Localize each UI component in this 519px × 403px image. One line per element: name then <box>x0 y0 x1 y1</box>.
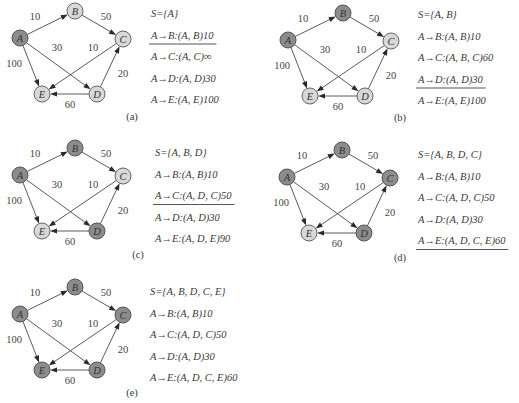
path-line: A→E:(A, D, E)90 <box>154 233 231 245</box>
path-line: A→C:(A, C)∞ <box>150 51 212 63</box>
weight-label-A-D: 30 <box>52 42 63 53</box>
arrowhead-D-E <box>50 367 57 372</box>
arrowhead-B-C <box>109 166 116 172</box>
edge-C-E <box>320 182 384 225</box>
node-label-B: B <box>72 6 79 17</box>
edge-A-E <box>290 184 304 220</box>
path-line: A→B:(A, B)10 <box>417 171 481 183</box>
path-line: A→C:(A, D, C)50 <box>154 190 232 202</box>
panel-caption: (b) <box>394 112 407 124</box>
arrowhead-B-C <box>377 31 384 37</box>
visited-set-label: S={A, B, D, C} <box>418 149 483 160</box>
weight-label-A-B: 10 <box>298 13 309 24</box>
visited-set-label: S={A, B} <box>418 9 458 20</box>
weight-label-A-E: 100 <box>6 334 22 345</box>
arrowhead-D-E <box>50 91 57 96</box>
panel-caption: (a) <box>126 111 138 123</box>
path-line: A→D:(A, D)30 <box>150 73 216 85</box>
arrowhead-C-E <box>316 222 323 228</box>
panel-c: 105030100102060ABCDES={A, B, D}A→B:(A, B… <box>6 140 234 261</box>
arrowhead-D-E <box>318 93 325 98</box>
node-label-B: B <box>339 145 346 156</box>
arrowhead-D-E <box>317 230 324 235</box>
node-label-C: C <box>119 310 127 321</box>
arrowhead-A-E <box>34 79 39 86</box>
visited-set-label: S={A, B, D} <box>155 147 207 158</box>
arrowhead-A-D <box>83 220 90 226</box>
arrowhead-A-B <box>328 17 335 22</box>
arrowhead-A-E <box>302 81 307 88</box>
node-label-B: B <box>340 8 347 19</box>
panel-e: 105030100102060ABCDES={A, B, D, C, E}A→B… <box>6 279 238 399</box>
path-line: A→B:(A, B)10 <box>154 169 218 181</box>
node-label-D: D <box>92 365 101 376</box>
edge-C-E <box>53 180 117 223</box>
weight-label-D-E: 60 <box>332 238 343 249</box>
node-label-D: D <box>360 91 369 102</box>
arrowhead-A-B <box>60 152 67 157</box>
weight-label-C-E: 10 <box>88 42 99 53</box>
arrowhead-A-D <box>350 222 357 228</box>
weight-label-A-D: 30 <box>320 44 331 55</box>
arrowhead-B-C <box>109 29 116 35</box>
arrowhead-D-C <box>114 46 119 53</box>
arrowhead-C-E <box>49 359 56 365</box>
arrowhead-A-B <box>60 15 67 20</box>
weight-label-D-C: 20 <box>386 70 397 81</box>
path-line: A→B:(A, B)10 <box>149 308 213 320</box>
edge-D-C <box>367 190 384 226</box>
edge-C-E <box>53 43 117 86</box>
node-label-A: A <box>284 35 292 46</box>
weight-label-D-E: 60 <box>333 101 344 112</box>
node-label-E: E <box>38 89 46 100</box>
edge-D-C <box>368 53 385 89</box>
weight-label-D-C: 20 <box>385 207 396 218</box>
weight-label-A-E: 100 <box>6 195 22 206</box>
weight-label-C-E: 10 <box>88 179 99 190</box>
weight-label-C-E: 10 <box>88 318 99 329</box>
dijkstra-figure: 105030100102060ABCDES={A}A→B:(A, B)10A→C… <box>0 0 519 403</box>
node-label-C: C <box>119 171 127 182</box>
arrowhead-A-E <box>34 355 39 362</box>
arrowhead-C-E <box>49 220 56 226</box>
arrowhead-D-C <box>114 183 119 190</box>
path-line: A→C:(A, D, C)50 <box>149 329 227 341</box>
visited-set-label: S={A, B, D, C, E} <box>150 286 226 297</box>
arrowhead-A-B <box>327 154 334 159</box>
path-line: A→D:(A, D)30 <box>417 74 483 86</box>
weight-label-C-E: 10 <box>356 44 367 55</box>
arrowhead-A-D <box>83 83 90 89</box>
node-label-E: E <box>305 228 313 239</box>
node-label-A: A <box>16 309 24 320</box>
arrowhead-A-E <box>301 218 306 225</box>
path-line: A→B:(A, B)10 <box>150 30 214 42</box>
weight-label-D-E: 60 <box>65 375 76 386</box>
arrowhead-A-D <box>351 85 358 91</box>
node-label-E: E <box>38 226 46 237</box>
arrowhead-A-D <box>83 359 90 365</box>
path-line: A→C:(A, D, C)50 <box>417 192 495 204</box>
arrowhead-A-B <box>60 291 67 296</box>
node-label-E: E <box>306 91 314 102</box>
arrowhead-A-E <box>34 216 39 223</box>
node-label-E: E <box>38 365 46 376</box>
arrowhead-C-E <box>317 85 324 91</box>
arrowhead-D-C <box>114 322 119 329</box>
edge-D-C <box>100 188 117 224</box>
arrowhead-C-E <box>49 83 56 89</box>
path-line: A→C:(A, B, C)60 <box>417 52 494 64</box>
node-label-C: C <box>387 36 395 47</box>
path-line: A→D:(A, D)30 <box>149 351 215 363</box>
weight-label-A-E: 100 <box>273 197 289 208</box>
node-label-C: C <box>119 34 127 45</box>
edge-A-E <box>23 45 37 81</box>
path-line: A→E:(A, D, C, E)60 <box>417 235 506 247</box>
weight-label-B-C: 50 <box>369 13 380 24</box>
weight-label-A-B: 10 <box>30 11 41 22</box>
path-line: A→E:(A, E)100 <box>150 94 219 106</box>
edge-C-E <box>53 319 117 362</box>
weight-label-A-E: 100 <box>6 58 22 69</box>
weight-label-A-D: 30 <box>52 179 63 190</box>
panel-caption: (d) <box>394 252 407 264</box>
node-label-B: B <box>72 143 79 154</box>
